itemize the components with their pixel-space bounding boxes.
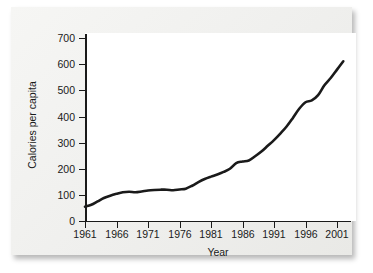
chart-figure: 700 600 500 400 300 200 100 0 1961 1966 … — [0, 0, 373, 273]
y-axis-line — [85, 34, 87, 222]
plot-area — [85, 33, 356, 221]
y-tick-label-100: 100 — [35, 190, 75, 201]
y-tick-100 — [79, 195, 85, 196]
y-tick-label-200: 200 — [35, 164, 75, 175]
y-tick-label-500: 500 — [35, 85, 75, 96]
y-tick-500 — [79, 90, 85, 91]
y-axis-title: Calories per capita — [26, 60, 38, 190]
x-axis-title: Year — [85, 246, 351, 258]
x-tick-label-2001: 2001 — [314, 229, 360, 240]
y-tick-label-400: 400 — [35, 112, 75, 123]
chart-card: 700 600 500 400 300 200 100 0 1961 1966 … — [11, 7, 352, 255]
y-tick-label-0: 0 — [35, 216, 75, 227]
y-tick-600 — [79, 64, 85, 65]
y-tick-300 — [79, 143, 85, 144]
y-tick-label-700: 700 — [35, 33, 75, 44]
y-tick-200 — [79, 169, 85, 170]
y-tick-700 — [79, 38, 85, 39]
x-axis-line — [85, 221, 351, 223]
y-tick-label-300: 300 — [35, 138, 75, 149]
y-tick-label-600: 600 — [35, 59, 75, 70]
y-tick-400 — [79, 117, 85, 118]
